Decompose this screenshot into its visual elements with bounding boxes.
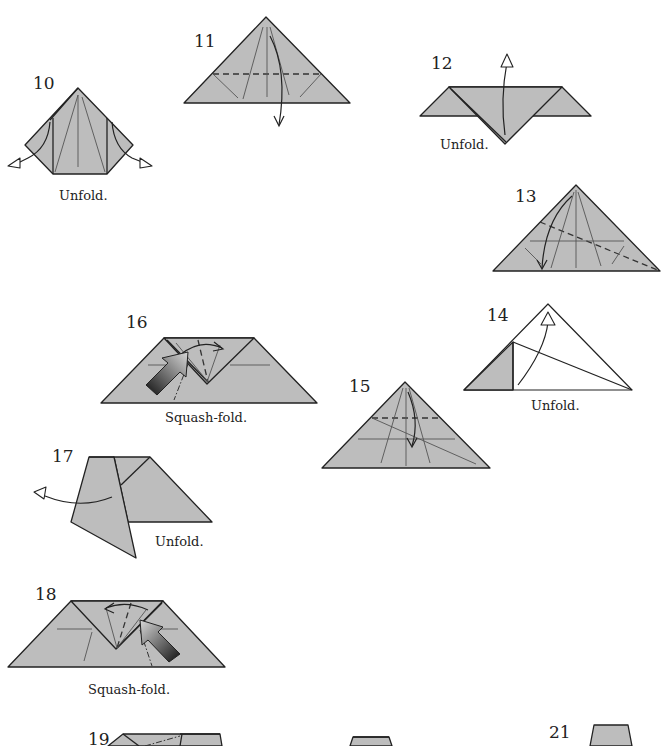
- step-number-16: 16: [126, 314, 148, 331]
- step-number-18: 18: [35, 586, 57, 603]
- step-19-diagram: [108, 734, 222, 746]
- step-20-diagram: [350, 737, 392, 746]
- step-number-19: 19: [88, 731, 110, 746]
- open-arrowhead-icon: [34, 487, 46, 499]
- step-number-21: 21: [549, 724, 571, 741]
- caption-step-14: Unfold.: [531, 399, 580, 412]
- step-10-diagram: [8, 88, 152, 174]
- instruction-page: 10 11 12 13 14 15 16 17 18 19 21 Unfold.…: [0, 0, 661, 746]
- step-number-14: 14: [487, 307, 509, 324]
- step-21-diagram: [590, 725, 632, 746]
- step-number-10: 10: [33, 75, 55, 92]
- caption-step-18: Squash-fold.: [88, 683, 170, 696]
- caption-step-12: Unfold.: [440, 138, 489, 151]
- step-18-diagram: [8, 601, 225, 667]
- diagram-canvas: [0, 0, 661, 746]
- step-number-12: 12: [431, 55, 453, 72]
- caption-step-16: Squash-fold.: [165, 411, 247, 424]
- open-arrowhead-icon: [501, 54, 513, 67]
- step-number-17: 17: [52, 448, 74, 465]
- step-number-15: 15: [349, 378, 371, 395]
- step-number-11: 11: [194, 33, 216, 50]
- step-number-13: 13: [515, 188, 537, 205]
- step-16-diagram: [101, 338, 317, 403]
- caption-step-17: Unfold.: [155, 535, 204, 548]
- caption-step-10: Unfold.: [59, 189, 108, 202]
- open-arrowhead-icon: [8, 158, 20, 168]
- step-15-diagram: [322, 382, 490, 468]
- open-arrowhead-icon: [140, 158, 152, 168]
